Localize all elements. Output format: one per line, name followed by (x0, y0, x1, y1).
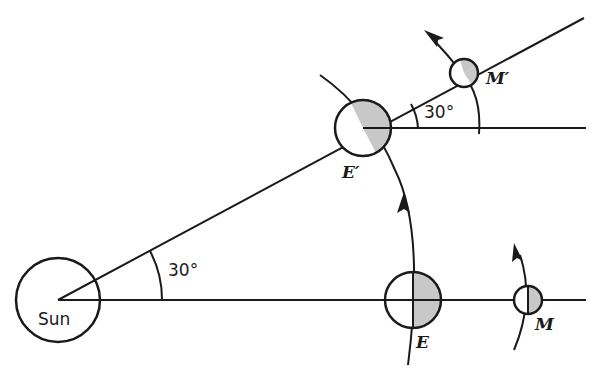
sun-earth-moon-diagram: 30° 30° E E′ M M′ (0, 0, 603, 375)
earth-orbit-arrow-icon (397, 192, 410, 213)
moon-prime (450, 59, 478, 87)
earth-prime-label: E′ (341, 162, 360, 182)
moon-orbit-arrow-icon (512, 243, 523, 262)
moon-label: M (534, 314, 555, 334)
sun-label: Sun (38, 309, 70, 329)
angle-label-sun: 30° (168, 260, 198, 280)
moon-prime-orbit-arrow-icon (424, 30, 444, 47)
angle-label-earth-prime: 30° (424, 102, 454, 122)
earth-label: E (415, 332, 430, 352)
angle-arc-sun (150, 251, 162, 300)
earth-prime (335, 100, 391, 156)
moon (514, 286, 542, 314)
sun-earth-prime-line (58, 18, 584, 300)
earth (385, 272, 441, 328)
moon-prime-label: M′ (485, 68, 510, 88)
